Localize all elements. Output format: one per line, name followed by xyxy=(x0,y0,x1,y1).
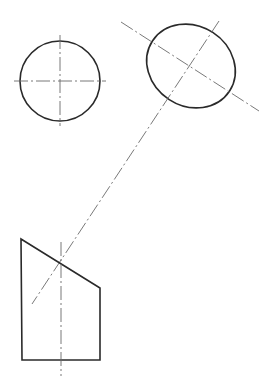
prism-outline xyxy=(21,239,100,360)
truncated-prism-view xyxy=(21,239,100,376)
circle-view xyxy=(14,35,106,126)
ellipse-outline xyxy=(131,7,252,124)
drawing-canvas xyxy=(0,0,280,384)
ellipse-major-centerline xyxy=(121,22,259,111)
ellipse-view xyxy=(121,7,259,124)
